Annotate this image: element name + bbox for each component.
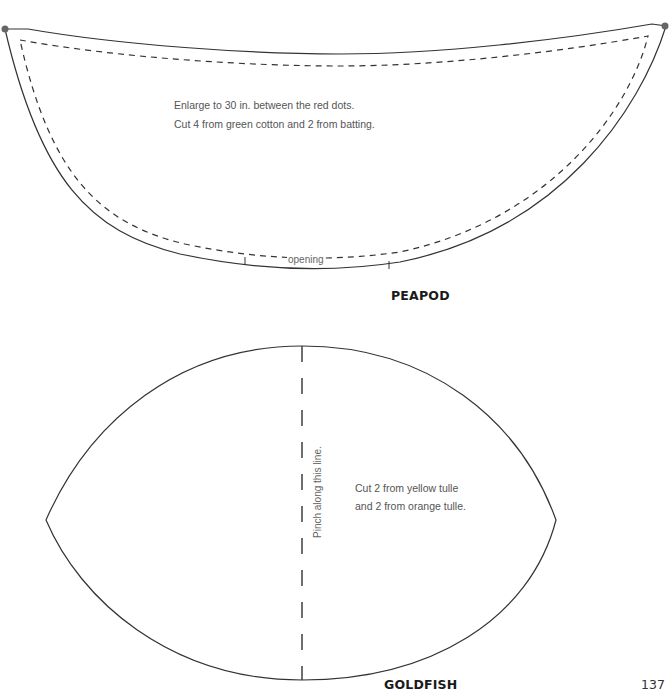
peapod-instruction-line: Cut 4 from green cotton and 2 from batti… <box>174 115 375 134</box>
goldfish-cut-line <box>46 346 556 680</box>
marker-dot-left <box>2 26 9 33</box>
page-number: 137 <box>641 677 665 692</box>
goldfish-instructions: Cut 2 from yellow tulle and 2 from orang… <box>355 479 466 515</box>
peapod-instruction-line: Enlarge to 30 in. between the red dots. <box>174 96 375 115</box>
peapod-seam-line <box>20 36 648 258</box>
opening-label: opening <box>287 254 325 266</box>
goldfish-title: GOLDFISH <box>384 677 457 692</box>
pinch-line-label: Pinch along this line. <box>312 446 324 538</box>
marker-dot-right <box>662 23 669 30</box>
peapod-title: PEAPOD <box>391 288 450 303</box>
goldfish-instruction-line: and 2 from orange tulle. <box>355 497 466 515</box>
peapod-instructions: Enlarge to 30 in. between the red dots. … <box>174 96 375 134</box>
goldfish-instruction-line: Cut 2 from yellow tulle <box>355 479 466 497</box>
peapod-cut-line <box>5 24 666 269</box>
